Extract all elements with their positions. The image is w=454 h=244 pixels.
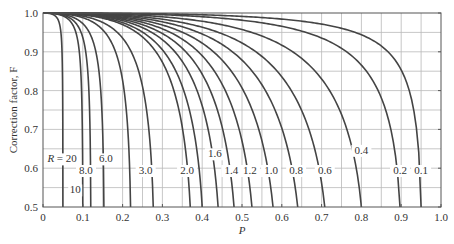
y-axis-label: Correction factor, F [7,67,19,154]
x-tick-label: 0 [40,211,46,223]
curve-label: 0.4 [355,144,369,156]
x-tick-label: 0.6 [275,211,289,223]
y-tick-label: 0.6 [24,162,38,174]
curve-label: 1.0 [264,164,278,176]
x-tick-label: 0.1 [76,211,90,223]
curve-labels: R = 20108.06.03.02.01.61.41.21.00.80.60.… [43,144,431,197]
x-tick-label: 0.5 [235,211,249,223]
curve-label: 1.6 [208,147,222,159]
curve-label: 1.2 [243,164,257,176]
y-tick-label: 0.5 [24,201,38,213]
y-tick-label: 1.0 [24,7,38,19]
y-tick-label: 0.9 [24,46,38,58]
curve-label: 10 [70,183,82,195]
cropped-caption [0,236,454,244]
x-tick-label: 0.9 [394,211,408,223]
x-tick-label: 0.2 [116,211,130,223]
curve-label: 6.0 [99,152,113,164]
curve-label: 0.1 [414,164,428,176]
x-tick-label: 0.8 [355,211,369,223]
curve-label: 8.0 [79,164,93,176]
curve-label: 0.8 [289,164,303,176]
curve-label: 0.6 [318,164,332,176]
y-tick-label: 0.8 [24,85,38,97]
curve-label: 1.4 [224,164,238,176]
x-tick-label: 0.4 [195,211,209,223]
curve-label: 3.0 [139,164,153,176]
curve-label: 0.2 [393,164,407,176]
curve-label: R = 20 [46,152,77,164]
x-tick-label: 0.3 [156,211,170,223]
x-tick-label: 0.7 [315,211,329,223]
y-tick-label: 0.7 [24,123,38,135]
x-tick-label: 1.0 [434,211,448,223]
x-axis-label: P [238,224,246,236]
correction-factor-chart: R = 20108.06.03.02.01.61.41.21.00.80.60.… [0,0,454,244]
curve-label: 2.0 [180,164,194,176]
